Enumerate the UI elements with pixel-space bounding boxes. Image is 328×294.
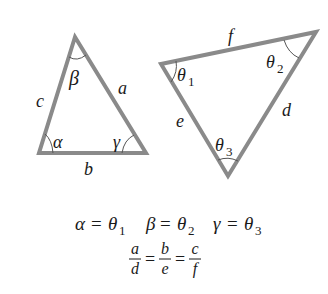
eq-theta2: θ bbox=[177, 213, 186, 234]
side-c-label: c bbox=[36, 91, 44, 111]
similar-triangles-diagram: β a c α γ b f θ 1 θ 2 d e θ 3 α = θ bbox=[0, 0, 328, 294]
gamma-arc bbox=[122, 135, 134, 153]
side-d-label: d bbox=[282, 100, 292, 120]
triangle-abc: β a c α γ b bbox=[36, 37, 146, 179]
fraction-b-e-denominator: e bbox=[161, 260, 168, 277]
angle-beta-label: β bbox=[68, 67, 79, 90]
eq-theta1: θ bbox=[108, 213, 117, 234]
eq-theta3-sub: 3 bbox=[255, 223, 262, 238]
angle-gamma-label: γ bbox=[113, 132, 121, 152]
beta-arc bbox=[69, 55, 86, 59]
eq-equals-2: = bbox=[160, 213, 171, 234]
fraction-b-e-numerator: b bbox=[161, 240, 169, 257]
side-e-label: e bbox=[176, 111, 184, 131]
theta1-subscript: 1 bbox=[188, 74, 195, 89]
angle-theta1-label: θ 1 bbox=[177, 65, 195, 89]
side-f-label: f bbox=[228, 26, 236, 46]
fraction-c-f-numerator: c bbox=[191, 240, 198, 257]
fraction-c-f-denominator: f bbox=[193, 260, 200, 278]
side-ratios: a d = b e = c f bbox=[129, 240, 201, 278]
theta2-subscript: 2 bbox=[277, 61, 284, 76]
theta3-symbol: θ bbox=[215, 135, 224, 155]
eq-beta: β bbox=[145, 213, 156, 234]
theta1-symbol: θ bbox=[177, 65, 186, 85]
fraction-b-e: b e bbox=[159, 240, 171, 277]
theta2-symbol: θ bbox=[266, 52, 275, 72]
triangle-def: f θ 1 θ 2 d e θ 3 bbox=[161, 26, 316, 176]
ratio-equals-1: = bbox=[145, 249, 155, 269]
side-a-label: a bbox=[118, 78, 127, 98]
fraction-a-d: a d bbox=[129, 240, 141, 277]
ratio-equals-2: = bbox=[175, 249, 185, 269]
angle-alpha-label: α bbox=[53, 132, 63, 152]
angle-equalities: α = θ 1 β = θ 2 γ = θ 3 bbox=[75, 213, 262, 238]
angle-theta2-label: θ 2 bbox=[266, 52, 284, 76]
eq-gamma: γ bbox=[213, 213, 221, 234]
fraction-a-d-numerator: a bbox=[131, 240, 139, 257]
eq-theta1-sub: 1 bbox=[119, 223, 126, 238]
fraction-c-f: c f bbox=[189, 240, 201, 278]
eq-equals-3: = bbox=[227, 213, 238, 234]
eq-equals-1: = bbox=[91, 213, 102, 234]
theta3-subscript: 3 bbox=[226, 144, 233, 159]
alpha-arc bbox=[45, 134, 53, 153]
theta2-arc bbox=[284, 40, 299, 58]
side-b-label: b bbox=[84, 159, 93, 179]
fraction-a-d-denominator: d bbox=[131, 260, 140, 277]
eq-theta3: θ bbox=[244, 213, 253, 234]
eq-alpha: α bbox=[75, 213, 86, 234]
eq-theta2-sub: 2 bbox=[188, 223, 195, 238]
